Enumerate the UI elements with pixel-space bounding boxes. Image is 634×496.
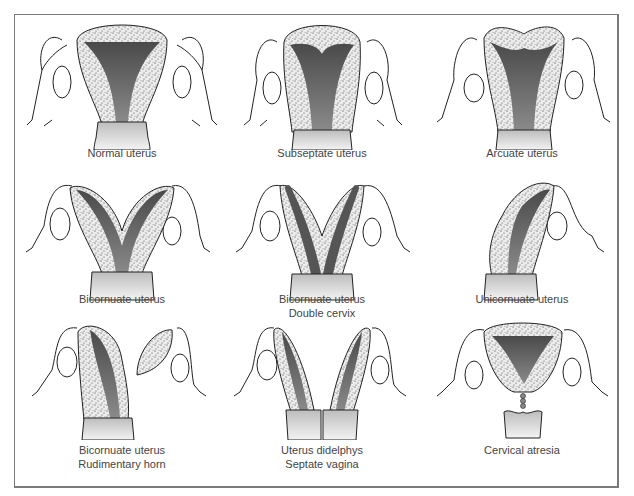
normal-uterus-illustration (22, 20, 222, 150)
panel-normal-uterus: Normal uterus (22, 20, 222, 170)
caption-line: Subseptate uterus (277, 147, 366, 159)
caption-line: Normal uterus (87, 147, 156, 159)
unicornuate-uterus-illustration (422, 176, 622, 301)
caption-line: Bicornuate uterus (79, 293, 165, 305)
caption: Bicornuate uterus Double cervix (222, 292, 422, 320)
panel-unicornuate-uterus: Unicornuate uterus (422, 176, 622, 316)
bicornuate-double-cervix-illustration (222, 176, 422, 301)
caption: Cervical atresia (422, 443, 622, 457)
caption-line: Uterus didelphys (222, 443, 422, 457)
caption-line: Unicornuate uterus (476, 293, 569, 305)
panel-uterus-didelphys: Uterus didelphys Septate vagina (222, 320, 422, 480)
caption: Normal uterus (22, 146, 222, 160)
caption: Unicornuate uterus (422, 292, 622, 306)
caption-line: Double cervix (222, 306, 422, 320)
panel-bicornuate-double-cervix: Bicornuate uterus Double cervix (222, 176, 422, 316)
panel-bicornuate-uterus: Bicornuate uterus (22, 176, 222, 316)
caption: Bicornuate uterus (22, 292, 222, 306)
caption: Subseptate uterus (222, 146, 422, 160)
caption: Uterus didelphys Septate vagina (222, 443, 422, 471)
bicornuate-uterus-illustration (22, 176, 222, 301)
panel-arcuate-uterus: Arcuate uterus (422, 20, 622, 170)
caption-line: Arcuate uterus (486, 147, 558, 159)
caption-line: Bicornuate uterus (222, 292, 422, 306)
caption: Bicornuate uterus Rudimentary horn (22, 443, 222, 471)
panel-bicornuate-rudimentary-horn: Bicornuate uterus Rudimentary horn (22, 320, 222, 480)
caption: Arcuate uterus (422, 146, 622, 160)
caption-line: Cervical atresia (484, 444, 560, 456)
caption-line: Septate vagina (222, 457, 422, 471)
caption-line: Rudimentary horn (22, 457, 222, 471)
cervical-atresia-illustration (422, 320, 622, 445)
bicornuate-rudimentary-horn-illustration (22, 320, 222, 440)
arcuate-uterus-illustration (422, 20, 622, 150)
panel-subseptate-uterus: Subseptate uterus (222, 20, 422, 170)
caption-line: Bicornuate uterus (22, 443, 222, 457)
panel-cervical-atresia: Cervical atresia (422, 320, 622, 480)
subseptate-uterus-illustration (222, 20, 422, 150)
uterus-didelphys-illustration (222, 320, 422, 440)
